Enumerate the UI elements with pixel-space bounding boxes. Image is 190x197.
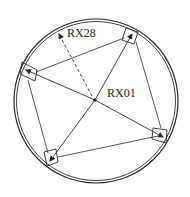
sensor-housing-top-right: [122, 28, 138, 44]
label-rx01: RX01: [107, 86, 136, 100]
diagram-canvas: RX28 RX01: [0, 0, 190, 197]
center-links: [26, 34, 163, 161]
sensor-housing-bottom-left: [44, 149, 58, 166]
center-node: [93, 98, 97, 102]
label-rx28: RX28: [67, 26, 96, 40]
perimeter-links: [28, 38, 161, 157]
